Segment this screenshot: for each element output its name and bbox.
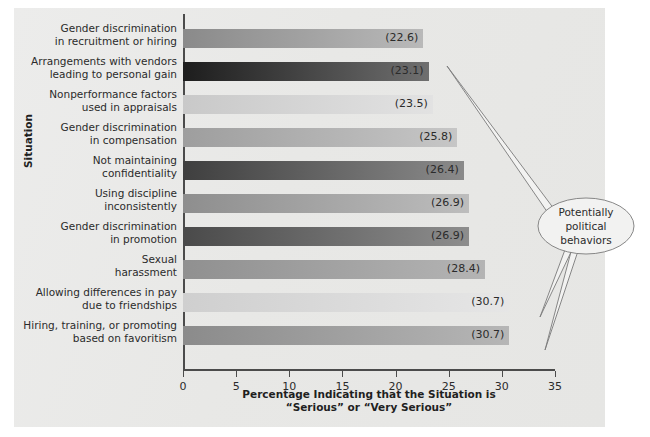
category-label: Hiring, training, or promotingbased on f…: [0, 319, 177, 344]
category-label: Gender discriminationin recruitment or h…: [0, 22, 177, 47]
x-tick: [502, 371, 503, 377]
category-label-line: inconsistently: [0, 200, 177, 213]
bar-value-label: (26.9): [431, 196, 464, 209]
category-label-line: Nonperformance factors: [0, 88, 177, 101]
bar: [183, 260, 485, 279]
category-label: Gender discriminationin promotion: [0, 220, 177, 245]
bar-row: (26.9): [183, 188, 555, 221]
bar: [183, 194, 469, 213]
x-tick: [555, 371, 556, 377]
category-label: Sexualharassment: [0, 253, 177, 278]
category-label-line: due to friendships: [0, 299, 177, 312]
bar-row: (26.4): [183, 155, 555, 188]
x-tick: [342, 371, 343, 377]
x-axis-title: Percentage Indicating that the Situation…: [183, 388, 555, 414]
x-axis-title-line1: Percentage Indicating that the Situation…: [183, 388, 555, 401]
bar-row: (22.6): [183, 23, 555, 56]
category-label-line: confidentiality: [0, 167, 177, 180]
x-axis-title-line2: “Serious” or “Very Serious”: [183, 401, 555, 414]
category-label-line: based on favoritism: [0, 332, 177, 345]
bar: [183, 293, 509, 312]
x-tick: [183, 371, 184, 377]
category-label-line: in recruitment or hiring: [0, 35, 177, 48]
bar-row: (30.7): [183, 287, 555, 320]
category-label-line: Hiring, training, or promoting: [0, 319, 177, 332]
bar-value-label: (22.6): [385, 31, 418, 44]
x-tick: [396, 371, 397, 377]
category-label-line: leading to personal gain: [0, 68, 177, 81]
category-label-line: in promotion: [0, 233, 177, 246]
plot-area: (22.6)(23.1)(23.5)(25.8)(26.4)(26.9)(26.…: [183, 14, 555, 371]
bar-row: (30.7): [183, 320, 555, 353]
category-label-line: Allowing differences in pay: [0, 286, 177, 299]
x-tick: [289, 371, 290, 377]
bar-value-label: (30.7): [471, 328, 504, 341]
category-label: Using disciplineinconsistently: [0, 187, 177, 212]
bar-row: (26.9): [183, 221, 555, 254]
category-label: Nonperformance factorsused in appraisals: [0, 88, 177, 113]
x-tick: [449, 371, 450, 377]
category-label-line: used in appraisals: [0, 101, 177, 114]
bar-row: (28.4): [183, 254, 555, 287]
callout-line-1: Potentially: [543, 205, 629, 219]
category-label: Allowing differences in paydue to friend…: [0, 286, 177, 311]
category-label: Arrangements with vendorsleading to pers…: [0, 55, 177, 80]
callout-label: Potentially political behaviors: [543, 205, 629, 247]
bar-value-label: (26.9): [431, 229, 464, 242]
bar-value-label: (26.4): [426, 163, 459, 176]
callout-line-2: political: [543, 219, 629, 233]
bar-value-label: (23.5): [395, 97, 428, 110]
bar-value-label: (30.7): [471, 295, 504, 308]
bar: [183, 227, 469, 246]
x-tick: [236, 371, 237, 377]
category-label-line: Gender discrimination: [0, 220, 177, 233]
bar: [183, 128, 457, 147]
x-axis-line: [183, 369, 555, 371]
bar-value-label: (28.4): [447, 262, 480, 275]
category-label-line: Using discipline: [0, 187, 177, 200]
bar-row: (25.8): [183, 122, 555, 155]
bar-row: (23.1): [183, 56, 555, 89]
category-label-line: Arrangements with vendors: [0, 55, 177, 68]
y-axis-title: Situation: [22, 114, 34, 168]
category-label-line: harassment: [0, 266, 177, 279]
bar-row: (23.5): [183, 89, 555, 122]
bar: [183, 161, 464, 180]
bar-value-label: (25.8): [419, 130, 452, 143]
bar-value-label: (23.1): [391, 64, 424, 77]
bar: [183, 326, 509, 345]
category-label-line: Gender discrimination: [0, 22, 177, 35]
chart-figure: Gender discriminationin recruitment or h…: [0, 0, 650, 437]
callout-line-3: behaviors: [543, 233, 629, 247]
category-label-line: Sexual: [0, 253, 177, 266]
